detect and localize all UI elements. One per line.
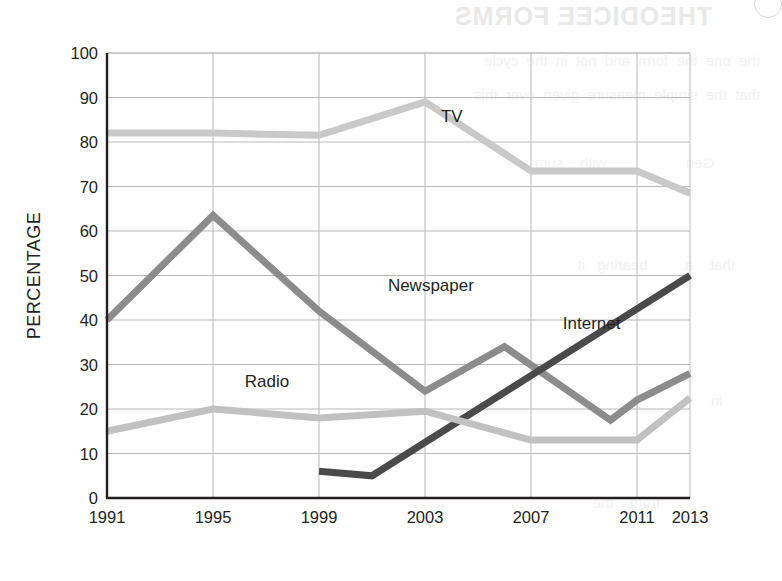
x-tick-label: 2013 — [672, 508, 709, 526]
series-label-radio: Radio — [245, 372, 289, 391]
y-tick-label: 30 — [80, 356, 98, 374]
y-tick-label: 40 — [80, 311, 98, 329]
series-line-radio — [107, 398, 690, 440]
x-tick-label: 1991 — [89, 508, 126, 526]
y-tick-label: 60 — [80, 222, 98, 240]
y-tick-label: 100 — [70, 44, 98, 62]
y-tick-label: 10 — [80, 445, 98, 463]
series-label-newspaper: Newspaper — [388, 276, 474, 295]
y-tick-label: 20 — [80, 400, 98, 418]
series-line-internet — [319, 276, 690, 476]
series-labels: TVNewspaperInternetRadio — [245, 107, 621, 391]
y-tick-label: 90 — [80, 89, 98, 107]
x-tick-label: 2003 — [407, 508, 444, 526]
series-label-tv: TV — [441, 107, 463, 126]
y-tick-label: 50 — [80, 267, 98, 285]
x-tick-label: 2007 — [513, 508, 550, 526]
x-tick-label: 2011 — [619, 508, 654, 526]
series-label-internet: Internet — [563, 314, 621, 333]
y-axis-title: PERCENTAGE — [24, 212, 44, 340]
y-tick-label: 70 — [80, 178, 98, 196]
x-tick-label: 1999 — [301, 508, 338, 526]
y-tick-label: 0 — [89, 489, 98, 507]
y-tick-label: 80 — [80, 133, 98, 151]
x-tick-label: 1995 — [195, 508, 232, 526]
series-line-tv — [107, 102, 690, 193]
